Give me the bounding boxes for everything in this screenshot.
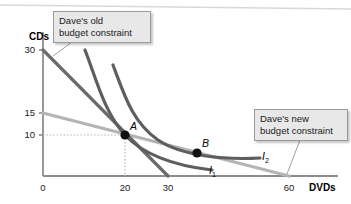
- callout-new-budget-constraint: Dave's new budget constraint: [254, 109, 348, 141]
- point-a-label: A: [130, 120, 137, 132]
- x-axis-label: DVDs: [309, 182, 336, 193]
- x-tick-label-20: 20: [115, 182, 135, 193]
- leader-line-new-callout: [287, 140, 300, 174]
- x-tick-label-0: 0: [33, 182, 53, 193]
- figure-canvas: CDs DVDs 30 15 10 0 20 30 60 A B I1 I2 D…: [0, 0, 351, 204]
- x-tick-label-30: 30: [158, 182, 178, 193]
- callout-old-budget-constraint: Dave's old budget constraint: [53, 11, 151, 43]
- y-tick-label-15: 15: [10, 107, 35, 118]
- curve-label-i1: I1: [209, 164, 216, 178]
- curve-label-i2-sub: 2: [265, 157, 269, 164]
- curve-label-i1-sub: 1: [212, 171, 216, 178]
- leader-line-old-callout: [53, 42, 72, 56]
- page-rule-line: [0, 5, 351, 9]
- old-budget-constraint-line: [43, 50, 168, 176]
- x-tick-label-60: 60: [279, 182, 299, 193]
- point-b-marker: [192, 148, 201, 157]
- y-axis-label: CDs: [29, 31, 49, 42]
- y-tick-label-10: 10: [10, 129, 35, 140]
- y-tick-label-30: 30: [10, 44, 35, 55]
- curve-label-i2: I2: [262, 150, 269, 164]
- point-a-marker: [120, 130, 129, 139]
- point-b-label: B: [202, 137, 209, 149]
